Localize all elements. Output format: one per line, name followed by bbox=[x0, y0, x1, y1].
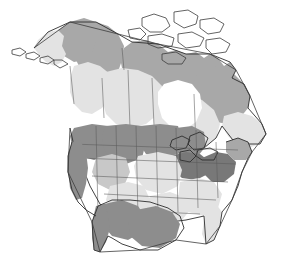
north-america-range-map bbox=[0, 0, 288, 265]
map-canvas bbox=[0, 0, 288, 265]
